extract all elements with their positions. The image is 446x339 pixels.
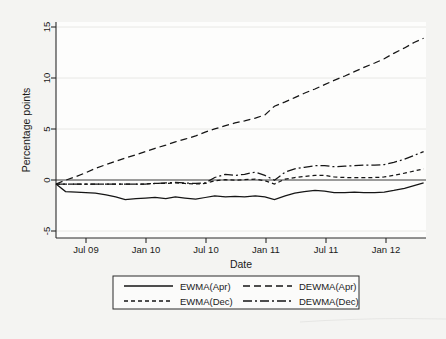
chart-figure: 15 10 5 0 -5 Percentage points Jul 09 Ja…	[0, 0, 446, 339]
x-tick-label: Jul 09	[73, 244, 98, 255]
legend-label-ewma-apr: EWMA(Apr)	[180, 281, 231, 292]
y-tick-label: 5	[41, 126, 52, 131]
plot-area-background	[56, 22, 426, 238]
legend-label-dewma-apr: DEWMA(Apr)	[299, 281, 357, 292]
y-axis-title: Percentage points	[20, 88, 32, 173]
legend-label-dewma-dec: DEWMA(Dec)	[299, 296, 359, 307]
x-tick-label: Jan 12	[372, 244, 401, 255]
legend-label-ewma-dec: EWMA(Dec)	[180, 296, 233, 307]
chart-svg: 15 10 5 0 -5 Percentage points Jul 09 Ja…	[0, 0, 446, 339]
y-tick-label: 0	[41, 177, 52, 182]
x-axis-title: Date	[230, 258, 252, 270]
x-tick-label: Jan 10	[132, 244, 161, 255]
y-tick-label: 15	[41, 22, 52, 33]
x-tick-label: Jul 10	[193, 244, 218, 255]
y-tick-label: 10	[41, 73, 52, 84]
y-tick-label: -5	[41, 227, 52, 235]
x-tick-label: Jul 11	[314, 244, 339, 255]
chart-legend: EWMA(Apr) DEWMA(Apr) EWMA(Dec) DEWMA(Dec…	[113, 276, 359, 309]
x-tick-label: Jan 11	[252, 244, 280, 255]
